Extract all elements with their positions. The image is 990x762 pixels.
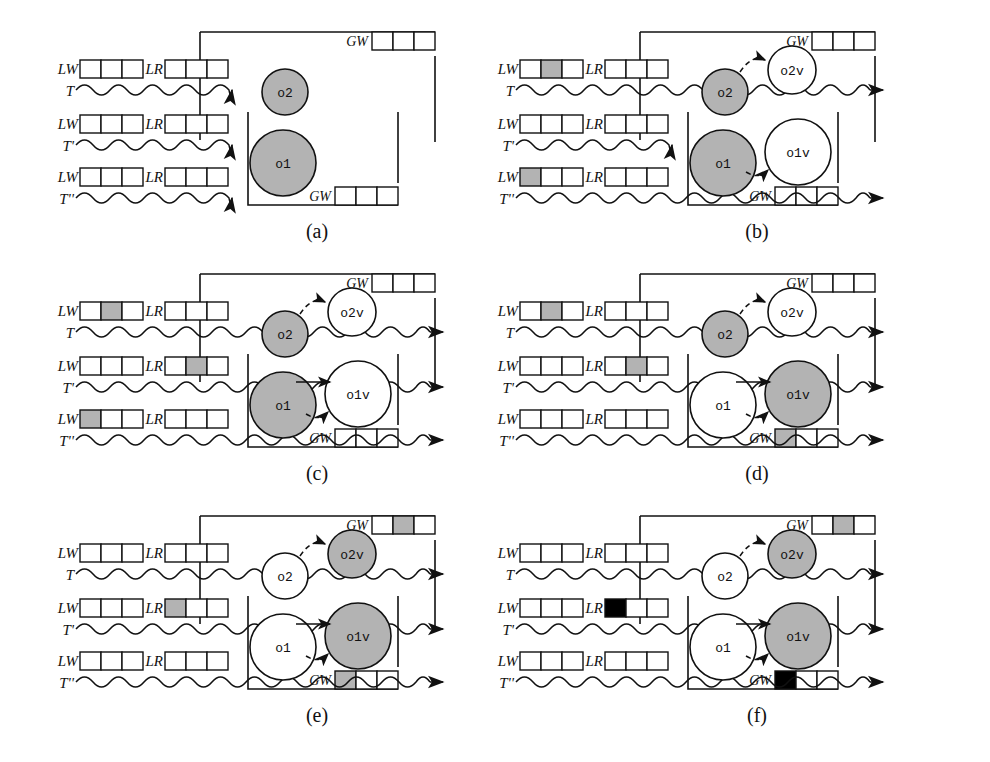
cell-empty[interactable] bbox=[101, 115, 122, 133]
cell-empty[interactable] bbox=[165, 60, 186, 78]
cell-shaded[interactable] bbox=[520, 168, 541, 186]
cell-empty[interactable] bbox=[186, 599, 207, 617]
cell-empty[interactable] bbox=[122, 115, 143, 133]
cell-empty[interactable] bbox=[414, 274, 435, 292]
cell-empty[interactable] bbox=[647, 357, 668, 375]
cell-empty[interactable] bbox=[80, 652, 101, 670]
cell-empty[interactable] bbox=[647, 544, 668, 562]
cell-empty[interactable] bbox=[626, 302, 647, 320]
cell-empty[interactable] bbox=[165, 168, 186, 186]
cell-empty[interactable] bbox=[186, 410, 207, 428]
cell-empty[interactable] bbox=[541, 115, 562, 133]
cell-empty[interactable] bbox=[101, 544, 122, 562]
cell-empty[interactable] bbox=[626, 652, 647, 670]
cell-empty[interactable] bbox=[377, 671, 398, 689]
cell-empty[interactable] bbox=[122, 652, 143, 670]
cell-empty[interactable] bbox=[562, 357, 583, 375]
cell-empty[interactable] bbox=[377, 187, 398, 205]
cell-empty[interactable] bbox=[80, 168, 101, 186]
cell-empty[interactable] bbox=[605, 652, 626, 670]
cell-empty[interactable] bbox=[207, 410, 228, 428]
cell-empty[interactable] bbox=[812, 32, 833, 50]
cell-empty[interactable] bbox=[186, 652, 207, 670]
cell-empty[interactable] bbox=[335, 187, 356, 205]
cell-empty[interactable] bbox=[541, 652, 562, 670]
cell-empty[interactable] bbox=[356, 187, 377, 205]
cell-empty[interactable] bbox=[562, 60, 583, 78]
cell-empty[interactable] bbox=[122, 60, 143, 78]
cell-empty[interactable] bbox=[393, 274, 414, 292]
cell-empty[interactable] bbox=[165, 115, 186, 133]
cell-empty[interactable] bbox=[377, 429, 398, 447]
cell-empty[interactable] bbox=[520, 652, 541, 670]
cell-empty[interactable] bbox=[541, 544, 562, 562]
cell-empty[interactable] bbox=[372, 516, 393, 534]
cell-empty[interactable] bbox=[122, 599, 143, 617]
cell-empty[interactable] bbox=[626, 544, 647, 562]
cell-empty[interactable] bbox=[165, 652, 186, 670]
cell-empty[interactable] bbox=[101, 652, 122, 670]
cell-empty[interactable] bbox=[520, 599, 541, 617]
cell-empty[interactable] bbox=[165, 302, 186, 320]
cell-empty[interactable] bbox=[854, 516, 875, 534]
cell-shaded[interactable] bbox=[541, 302, 562, 320]
cell-empty[interactable] bbox=[817, 187, 838, 205]
cell-empty[interactable] bbox=[165, 357, 186, 375]
cell-shaded[interactable] bbox=[541, 60, 562, 78]
cell-empty[interactable] bbox=[207, 60, 228, 78]
cell-empty[interactable] bbox=[207, 115, 228, 133]
cell-empty[interactable] bbox=[541, 168, 562, 186]
cell-empty[interactable] bbox=[101, 168, 122, 186]
cell-empty[interactable] bbox=[562, 544, 583, 562]
cell-shaded[interactable] bbox=[393, 516, 414, 534]
cell-empty[interactable] bbox=[817, 671, 838, 689]
cell-shaded[interactable] bbox=[626, 357, 647, 375]
cell-empty[interactable] bbox=[122, 168, 143, 186]
cell-empty[interactable] bbox=[122, 410, 143, 428]
cell-shaded[interactable] bbox=[165, 599, 186, 617]
cell-empty[interactable] bbox=[817, 429, 838, 447]
cell-empty[interactable] bbox=[541, 599, 562, 617]
cell-empty[interactable] bbox=[626, 60, 647, 78]
cell-empty[interactable] bbox=[207, 302, 228, 320]
cell-empty[interactable] bbox=[122, 302, 143, 320]
cell-empty[interactable] bbox=[812, 274, 833, 292]
cell-empty[interactable] bbox=[605, 115, 626, 133]
cell-empty[interactable] bbox=[101, 60, 122, 78]
cell-empty[interactable] bbox=[854, 32, 875, 50]
cell-empty[interactable] bbox=[80, 302, 101, 320]
cell-black[interactable] bbox=[605, 599, 626, 617]
cell-shaded[interactable] bbox=[80, 410, 101, 428]
cell-empty[interactable] bbox=[414, 32, 435, 50]
cell-empty[interactable] bbox=[207, 652, 228, 670]
cell-empty[interactable] bbox=[80, 544, 101, 562]
cell-empty[interactable] bbox=[372, 32, 393, 50]
cell-empty[interactable] bbox=[122, 357, 143, 375]
cell-empty[interactable] bbox=[372, 274, 393, 292]
cell-empty[interactable] bbox=[101, 410, 122, 428]
cell-empty[interactable] bbox=[562, 115, 583, 133]
cell-empty[interactable] bbox=[605, 302, 626, 320]
cell-empty[interactable] bbox=[80, 60, 101, 78]
cell-empty[interactable] bbox=[626, 115, 647, 133]
cell-empty[interactable] bbox=[520, 410, 541, 428]
cell-empty[interactable] bbox=[101, 599, 122, 617]
cell-empty[interactable] bbox=[101, 357, 122, 375]
cell-empty[interactable] bbox=[562, 302, 583, 320]
cell-empty[interactable] bbox=[647, 168, 668, 186]
cell-empty[interactable] bbox=[562, 168, 583, 186]
cell-shaded[interactable] bbox=[186, 357, 207, 375]
cell-empty[interactable] bbox=[520, 60, 541, 78]
cell-empty[interactable] bbox=[80, 115, 101, 133]
cell-empty[interactable] bbox=[812, 516, 833, 534]
cell-empty[interactable] bbox=[122, 544, 143, 562]
cell-empty[interactable] bbox=[647, 410, 668, 428]
cell-empty[interactable] bbox=[520, 357, 541, 375]
cell-empty[interactable] bbox=[626, 410, 647, 428]
cell-empty[interactable] bbox=[186, 168, 207, 186]
cell-empty[interactable] bbox=[80, 357, 101, 375]
cell-empty[interactable] bbox=[647, 599, 668, 617]
cell-shaded[interactable] bbox=[833, 516, 854, 534]
cell-empty[interactable] bbox=[647, 302, 668, 320]
cell-empty[interactable] bbox=[562, 599, 583, 617]
